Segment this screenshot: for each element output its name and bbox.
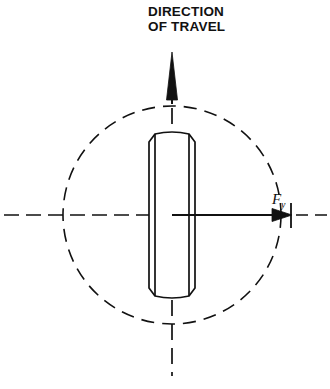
- diagram-canvas: DIRECTION OF TRAVEL F y: [0, 0, 330, 389]
- wheel-force-diagram: DIRECTION OF TRAVEL F y: [0, 0, 330, 389]
- direction-of-travel-line1: DIRECTION: [148, 4, 224, 19]
- force-subscript-label: y: [280, 199, 286, 210]
- direction-of-travel-line2: OF TRAVEL: [148, 19, 225, 34]
